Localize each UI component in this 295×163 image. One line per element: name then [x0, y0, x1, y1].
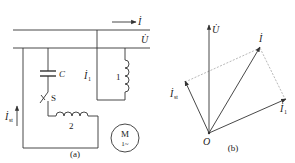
phasor-i1-arrow-icon [209, 99, 286, 133]
branch1-current-sub: 1 [88, 76, 91, 82]
phasor-i-label: İ [258, 33, 263, 44]
voltage-label: U̇ [141, 34, 149, 45]
phasor-i1-sub: 1 [284, 109, 287, 115]
phasor-ist-arrow-icon [185, 81, 209, 133]
switch-blade-icon [40, 92, 48, 103]
origin-point [208, 132, 210, 134]
switch-label: S [51, 93, 56, 103]
start-current-sub: st [9, 117, 13, 123]
phasor-ist-sub: st [174, 94, 178, 100]
winding2-coil-icon [56, 112, 88, 116]
caption-a: (a) [70, 149, 80, 159]
winding1-label: 1 [116, 72, 121, 82]
winding1-coil-icon [125, 60, 129, 92]
origin-label: O [203, 136, 210, 147]
phasor-diagram-b [185, 25, 286, 133]
winding2-label: 2 [69, 121, 74, 131]
motor-phase-label: 1~ [121, 140, 129, 148]
diagram-canvas: İ U̇ İ 1 1 C S 2 İ st M 1~ (a) U̇ İ İ st… [0, 0, 295, 163]
capacitor-label: C [59, 69, 66, 79]
phasor-i-arrow-icon [209, 47, 260, 133]
circuit-a [13, 22, 150, 152]
current-label: İ [137, 16, 142, 27]
phasor-u-label: U̇ [212, 24, 220, 35]
motor-label: M [121, 129, 129, 139]
dashed-ist-to-i [185, 48, 260, 82]
dashed-i-to-i1 [260, 48, 285, 99]
caption-b: (b) [228, 143, 239, 153]
